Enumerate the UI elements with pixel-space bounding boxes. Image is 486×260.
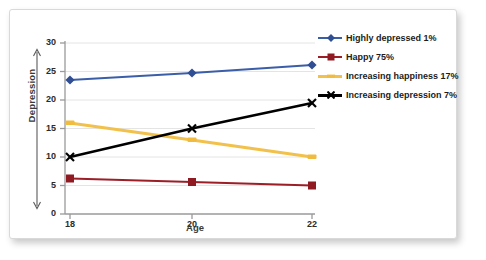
legend-item-happy[interactable]: Happy 75%: [318, 49, 458, 65]
legend-label-happy: Happy 75%: [346, 52, 394, 62]
y-tick-label-0: 0: [32, 208, 56, 218]
y-axis-title: Depression: [26, 43, 37, 149]
legend-label-highly-depressed: Highly depressed 1%: [346, 33, 437, 43]
series-point-happy-18: [66, 175, 74, 183]
series-point-highly-depressed-20: [187, 68, 196, 77]
series-point-increasing-happiness-22: [308, 155, 317, 160]
series-point-highly-depressed-22: [307, 60, 316, 69]
legend-label-increasing-depression: Increasing depression 7%: [346, 90, 457, 100]
y-axis: [60, 41, 65, 214]
legend-swatch-increasing-depression: [318, 89, 342, 101]
legend-label-increasing-happiness: Increasing happiness 17%: [346, 71, 459, 81]
square-icon: [327, 53, 335, 61]
chart-plot-area: 30 25 20 15 10 5 0 18 20 22 Depression A…: [10, 10, 458, 240]
series-highly-depressed: [65, 60, 316, 84]
x-tick-label-22: 22: [299, 219, 325, 229]
series-point-increasing-happiness-20: [188, 138, 197, 143]
legend-swatch-increasing-happiness: [318, 70, 342, 82]
y-axis-title-container: Depression: [18, 18, 44, 208]
x-marker-icon: [327, 91, 335, 99]
chart-figure-frame: 30 25 20 15 10 5 0 18 20 22 Depression A…: [9, 9, 457, 239]
grid-lines: [65, 43, 315, 186]
series-point-increasing-happiness-18: [66, 121, 75, 126]
series-happy: [66, 175, 316, 190]
legend-swatch-highly-depressed: [318, 32, 342, 44]
series-point-happy-20: [188, 178, 196, 186]
x-tick-label-18: 18: [57, 219, 83, 229]
series-point-happy-22: [308, 182, 316, 190]
legend-swatch-happy: [318, 51, 342, 63]
legend-item-highly-depressed[interactable]: Highly depressed 1%: [318, 30, 458, 46]
legend-item-increasing-depression[interactable]: Increasing depression 7%: [318, 87, 458, 103]
legend-item-increasing-happiness[interactable]: Increasing happiness 17%: [318, 68, 458, 84]
series-point-highly-depressed-18: [65, 75, 74, 84]
x-axis-title: Age: [130, 222, 260, 233]
diamond-icon: [327, 34, 335, 42]
dash-marker-icon: [327, 72, 335, 80]
chart-legend: Highly depressed 1% Happy 75%: [318, 30, 458, 106]
